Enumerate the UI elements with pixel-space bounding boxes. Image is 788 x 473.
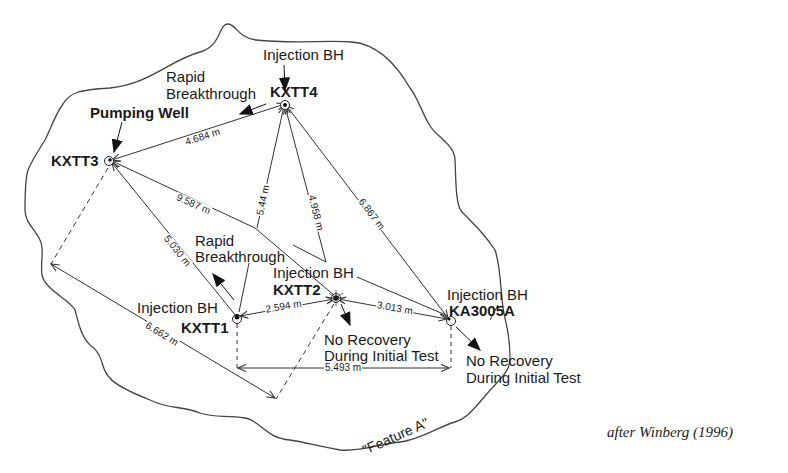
feature-a-boundary: [25, 24, 510, 450]
kxtt1-role-label: Injection BH: [137, 300, 218, 315]
kxtt3-role-label: Pumping Well: [90, 105, 189, 120]
kxtt1-label: KXTT1: [181, 320, 229, 335]
diagram-graphics: [0, 0, 788, 473]
diagram-canvas: Injection BH KXTT4 Rapid Breakthrough Pu…: [0, 0, 788, 473]
line-kxtt4-kxtt2: [285, 106, 326, 262]
kxtt2-role-label: Injection BH: [273, 265, 354, 280]
arrow-kxtt3-pumping: [114, 122, 122, 152]
dashed-kxtt3-corner: [51, 168, 108, 264]
arrow-kxtt1-breakthrough: [213, 274, 234, 300]
kxtt2-note-line1: No Recovery: [324, 332, 411, 347]
leader-kxtt1-note: [239, 263, 249, 312]
leader-kxtt2-label: [293, 245, 326, 262]
arrow-ka3005a-norecovery: [456, 327, 480, 350]
ka3005a-role-label: Injection BH: [447, 287, 528, 302]
kxtt2-label: KXTT2: [273, 282, 321, 297]
kxtt4-label: KXTT4: [270, 84, 318, 99]
kxtt4-note-line2: Breakthrough: [166, 86, 256, 101]
borehole-marker-kxtt3[interactable]: [105, 157, 114, 166]
kxtt1-note-line1: Rapid: [195, 233, 234, 248]
arrow-kxtt2-norecovery: [341, 304, 350, 325]
ka3005a-note-line2: During Initial Test: [466, 370, 581, 385]
borehole-marker-kxtt4[interactable]: [281, 101, 290, 110]
borehole-marker-kxtt2[interactable]: [327, 290, 345, 306]
ka3005a-label: KA3005A: [449, 303, 515, 318]
kxtt3-label: KXTT3: [51, 153, 99, 168]
arrow-kxtt4-breakthrough: [240, 104, 266, 114]
ka3005a-note-line1: No Recovery: [466, 353, 553, 368]
distance-label-5493: 5.493 m: [324, 363, 362, 373]
kxtt2-note-line2: During Initial Test: [324, 348, 439, 363]
kxtt4-role-label: Injection BH: [263, 47, 344, 62]
borehole-marker-kxtt1[interactable]: [233, 315, 242, 324]
citation: after Winberg (1996): [607, 424, 733, 441]
kxtt4-note-line1: Rapid: [166, 69, 205, 84]
kxtt1-note-line2: Breakthrough: [195, 249, 285, 264]
